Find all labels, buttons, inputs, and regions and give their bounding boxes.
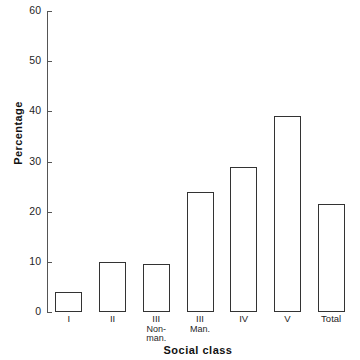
bar: [55, 292, 82, 312]
bar: [318, 204, 345, 312]
bar: [187, 192, 214, 312]
x-axis-title: Social class: [0, 344, 360, 356]
y-axis-tick-label: 0: [8, 306, 41, 316]
y-axis-tick-mark: [47, 312, 52, 313]
bar: [143, 264, 170, 312]
bars-container: [47, 11, 353, 312]
x-axis-tick-labels: IIIIIINon-man.IIIMan.IVVTotal: [47, 314, 353, 344]
bar: [274, 116, 301, 312]
x-axis-tick-label-line2: Man.: [171, 325, 229, 335]
bar: [230, 167, 257, 312]
y-axis-tick-label: 20: [8, 206, 41, 216]
x-axis-tick-label: Total: [302, 314, 360, 325]
x-axis-tick-label-line3: man.: [127, 334, 185, 344]
bar: [99, 262, 126, 312]
bar-chart-figure: 0102030405060 Percentage IIIIIINon-man.I…: [0, 0, 360, 360]
y-axis-tick-label: 50: [8, 55, 41, 65]
y-axis-title: Percentage: [12, 88, 24, 178]
y-axis-tick-label: 10: [8, 256, 41, 266]
y-axis-tick-label: 60: [8, 5, 41, 15]
